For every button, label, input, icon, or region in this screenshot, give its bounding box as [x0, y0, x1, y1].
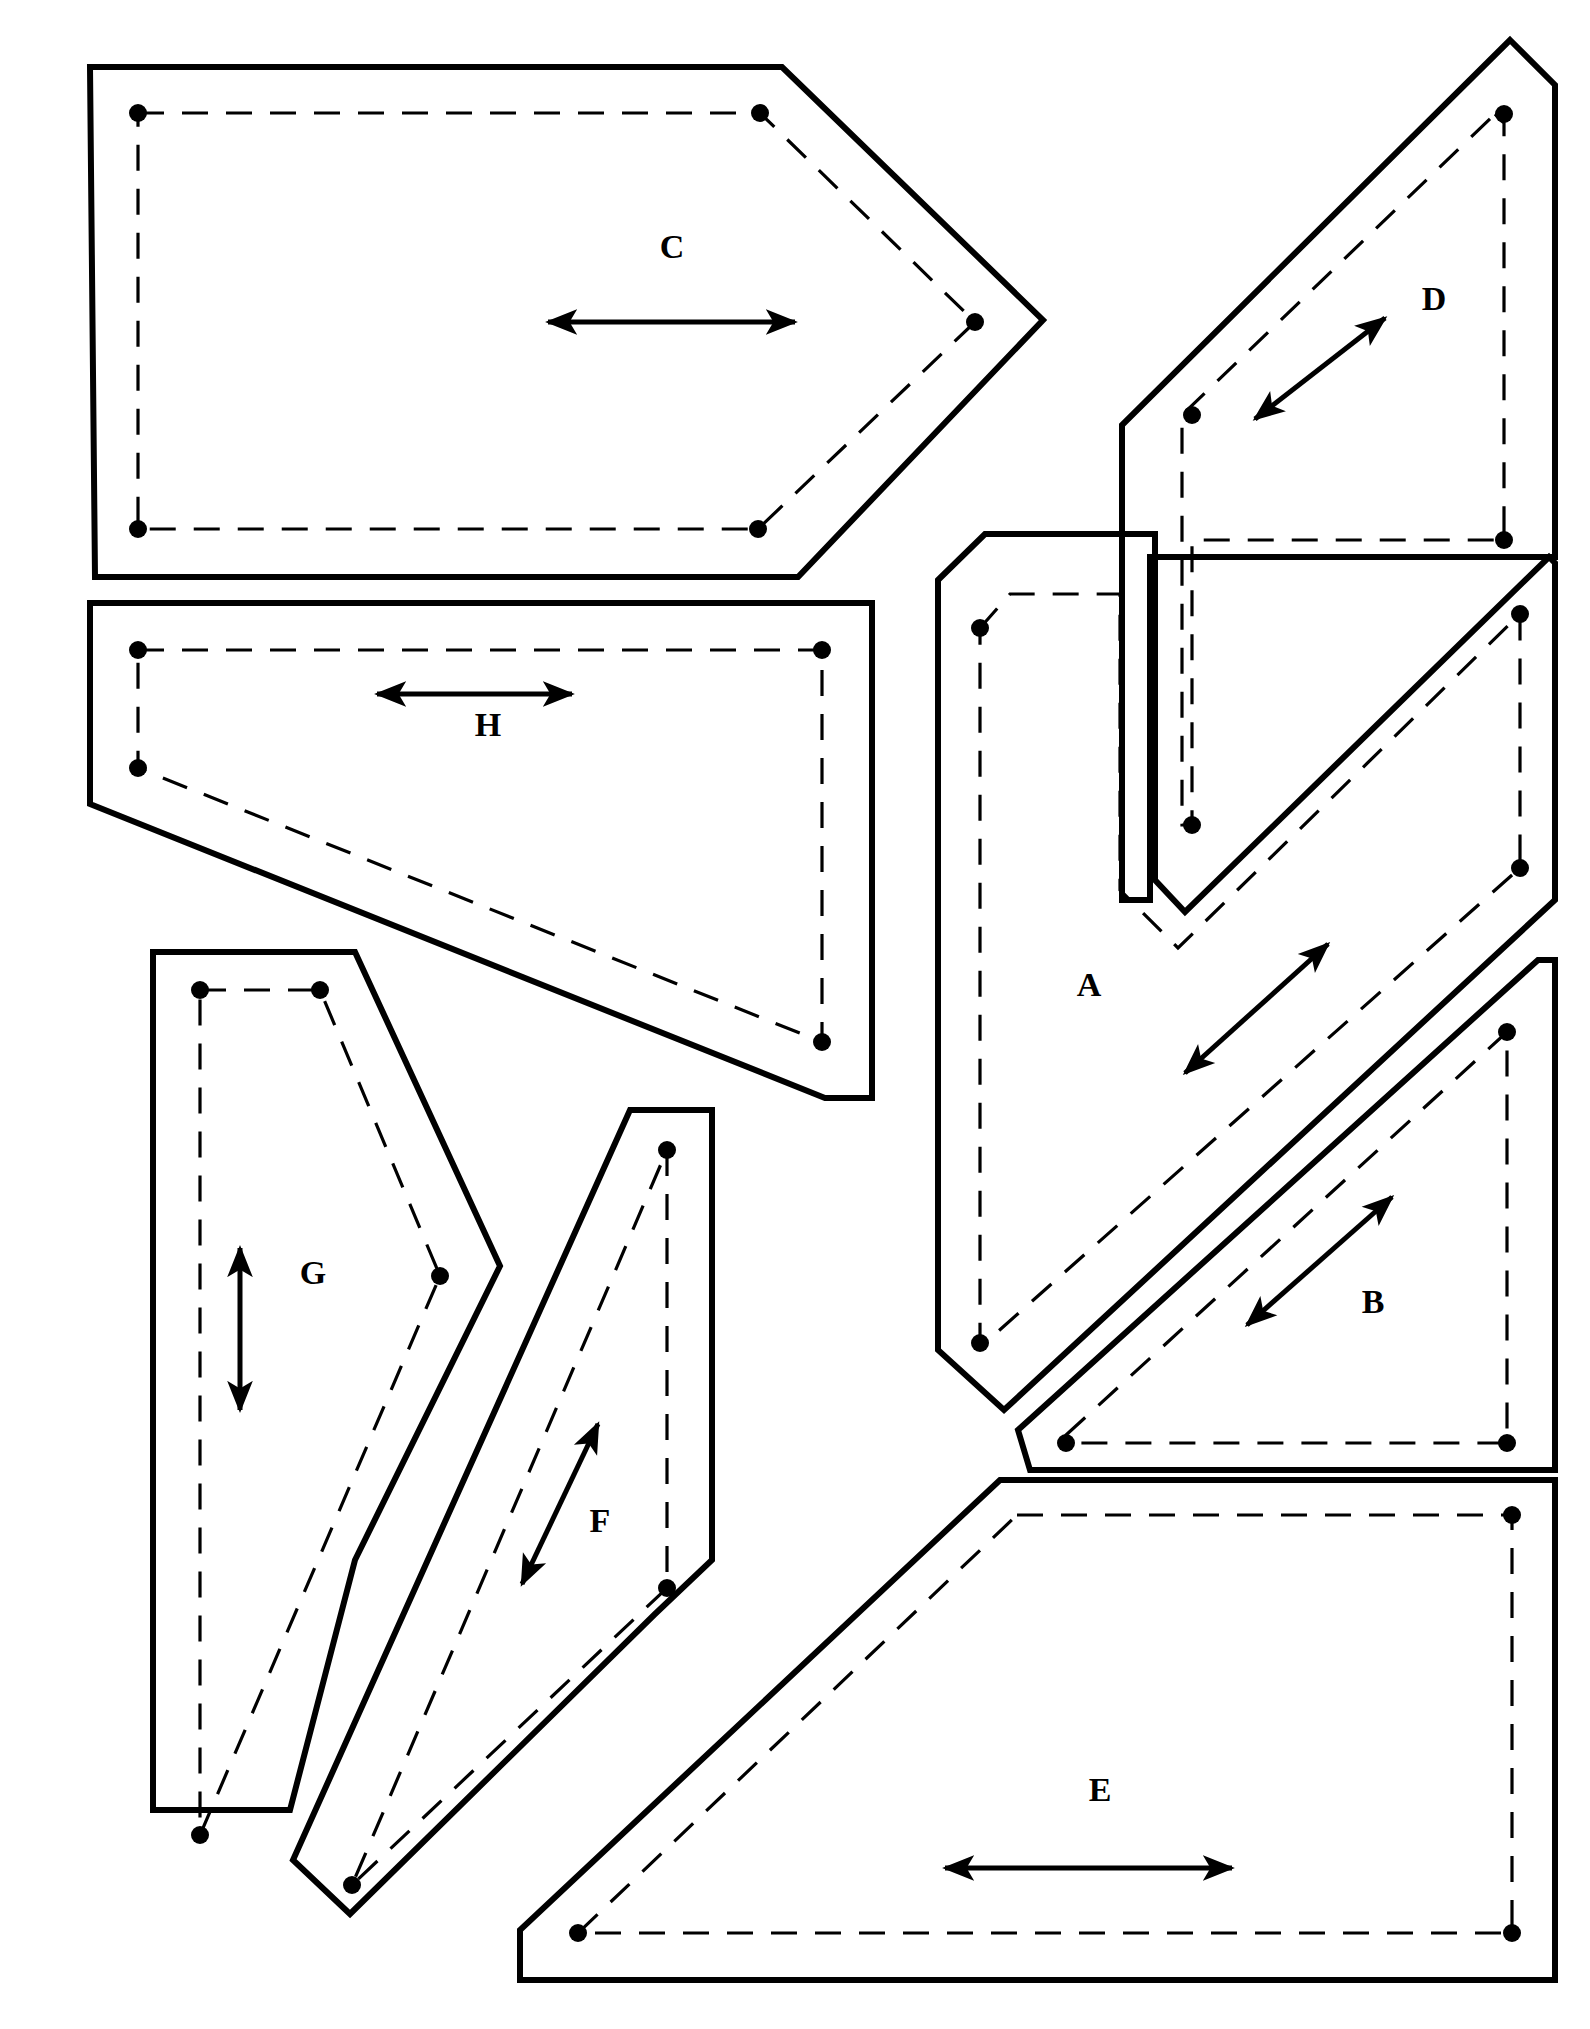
piece-label-a: A: [1077, 966, 1102, 1003]
notch-dot: [1498, 1434, 1516, 1452]
notch-dot: [749, 520, 767, 538]
pattern-piece-g[interactable]: G: [153, 952, 500, 1844]
notch-dot: [1511, 859, 1529, 877]
grain-line-arrow-d: [1255, 318, 1385, 419]
piece-label-b: B: [1362, 1283, 1385, 1320]
grain-line-arrow-a: [1185, 944, 1328, 1073]
notch-dot: [129, 759, 147, 777]
piece-label-h: H: [475, 706, 501, 743]
seam-line-b: [1066, 1032, 1507, 1443]
piece-label-g: G: [300, 1254, 326, 1291]
notch-dot: [971, 619, 989, 637]
seam-line-g: [200, 990, 440, 1835]
notch-dot: [658, 1141, 676, 1159]
notch-dot: [1503, 1924, 1521, 1942]
seam-line-a: [980, 594, 1520, 1343]
pattern-pieces-group: CDABEHGF: [90, 40, 1555, 1980]
pattern-layout-sheet: CDABEHGF: [0, 0, 1590, 2029]
notch-dot: [813, 641, 831, 659]
pattern-piece-e[interactable]: E: [520, 1480, 1555, 1980]
notch-dot: [129, 104, 147, 122]
grain-line-arrow-f: [522, 1424, 598, 1584]
seam-line-f: [352, 1150, 667, 1885]
cut-line-g: [153, 952, 500, 1810]
pattern-piece-d[interactable]: D: [1122, 40, 1555, 900]
notch-dot: [813, 1033, 831, 1051]
pattern-drawing-canvas: CDABEHGF: [0, 0, 1590, 2029]
notch-dot: [1498, 1023, 1516, 1041]
notch-dot: [1057, 1434, 1075, 1452]
notch-dot: [343, 1876, 361, 1894]
notch-dot: [966, 313, 984, 331]
piece-label-d: D: [1422, 280, 1447, 317]
piece-label-e: E: [1089, 1771, 1112, 1808]
cut-line-f: [293, 1110, 712, 1914]
notch-dot: [129, 641, 147, 659]
piece-label-f: F: [590, 1502, 611, 1539]
pattern-piece-f[interactable]: F: [293, 1110, 712, 1914]
notch-dot: [1183, 406, 1201, 424]
notch-dot: [431, 1267, 449, 1285]
pattern-piece-c[interactable]: C: [90, 67, 1043, 577]
notch-dot: [311, 981, 329, 999]
notch-dot: [971, 1334, 989, 1352]
notch-dot: [1495, 531, 1513, 549]
cut-line-d: [1122, 40, 1555, 900]
cut-line-b: [1018, 960, 1555, 1470]
notch-dot: [129, 520, 147, 538]
notch-dot: [658, 1579, 676, 1597]
notch-dot: [1511, 605, 1529, 623]
cut-line-h: [90, 603, 872, 1098]
cut-line-a: [938, 534, 1555, 1410]
notch-dot: [1183, 816, 1201, 834]
notch-dot: [1495, 105, 1513, 123]
piece-label-c: C: [660, 228, 685, 265]
pattern-piece-a[interactable]: A: [938, 534, 1555, 1410]
seam-line-d: [1182, 114, 1504, 825]
cut-line-e: [520, 1480, 1555, 1980]
notch-dot: [751, 104, 769, 122]
notch-dot: [569, 1924, 587, 1942]
notch-dot: [191, 981, 209, 999]
notch-dot: [191, 1826, 209, 1844]
pattern-piece-h[interactable]: H: [90, 603, 872, 1098]
pattern-piece-b[interactable]: B: [1018, 960, 1555, 1470]
notch-dot: [1503, 1506, 1521, 1524]
